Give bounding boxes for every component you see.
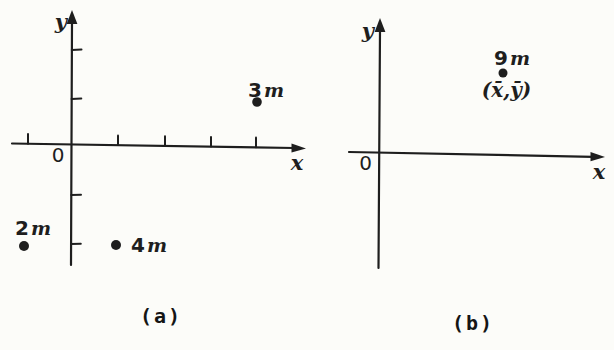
panel-a-origin-label: 0 xyxy=(52,143,65,167)
centroid-coord-label: (x̄,ȳ) xyxy=(482,78,531,102)
panel-a-y-axis-label: y xyxy=(54,9,69,34)
panel-b-y-axis-line xyxy=(379,30,381,268)
panel-a-x-axis-label: x xyxy=(290,150,304,175)
panel-b-origin-label: 0 xyxy=(359,151,372,175)
panel-b-y-axis-arrowhead xyxy=(375,18,386,32)
mass-dot-9m xyxy=(499,69,508,78)
panel-b-x-axis-label: x xyxy=(592,159,606,184)
panel-b-x-axis-line xyxy=(349,152,593,157)
mass-label-4m: 4m xyxy=(131,233,167,257)
panel-b: y x 0 9m (x̄,ȳ) (b) xyxy=(349,18,606,335)
panel-b-y-axis-label: y xyxy=(361,18,376,43)
panel-a-caption: (a) xyxy=(140,304,182,328)
mass-dot-2m xyxy=(19,241,29,251)
figure-canvas: y x 0 3m 2m 4m (a) y x 0 xyxy=(0,0,614,350)
panel-b-caption: (b) xyxy=(452,311,494,335)
mass-label-3m: 3m xyxy=(248,78,284,102)
figure-svg: y x 0 3m 2m 4m (a) y x 0 xyxy=(0,0,614,350)
mass-label-9m: 9m xyxy=(494,46,530,70)
mass-dot-4m xyxy=(111,240,121,250)
panel-a-y-axis-arrowhead xyxy=(67,10,78,24)
mass-label-2m: 2m xyxy=(15,216,51,240)
panel-a: y x 0 3m 2m 4m (a) xyxy=(12,9,306,328)
